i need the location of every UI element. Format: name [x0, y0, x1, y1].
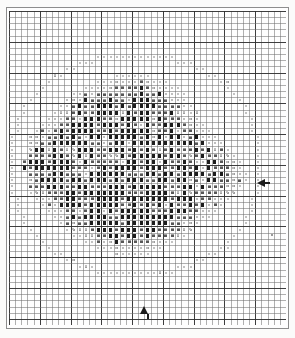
arrow-up-icon [140, 306, 148, 314]
arrow-left-icon [257, 179, 265, 187]
pattern-grid[interactable] [9, 11, 286, 325]
pattern-grid-canvas[interactable] [9, 11, 286, 325]
scan-speck [271, 234, 273, 236]
cross-stitch-chart: Cross Stitch Pattern Chart Scanned count… [0, 0, 295, 338]
arrow-up-tail [147, 314, 149, 319]
arrow-left-tail [265, 182, 270, 184]
